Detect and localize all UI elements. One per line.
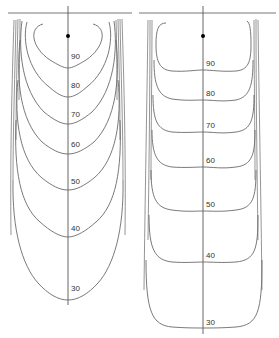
- left-label-60: 60: [71, 140, 80, 149]
- left-label-40: 40: [71, 224, 80, 233]
- left-source-dot: [66, 34, 70, 38]
- right-contour-60: [152, 130, 255, 168]
- right-label-70: 70: [206, 121, 215, 130]
- right-contour-50: [151, 170, 256, 211]
- left-panel: 90 80 70 60 50 40 30: [8, 6, 132, 305]
- left-label-70: 70: [71, 110, 80, 119]
- right-contour-90: [156, 21, 251, 71]
- left-label-50: 50: [71, 177, 80, 186]
- right-label-40: 40: [206, 251, 215, 260]
- contour-diagram: 90 80 70 60 50 40 30 90 80 70 60 50 40: [0, 0, 279, 338]
- left-label-80: 80: [71, 81, 80, 90]
- right-contour-40: [149, 215, 258, 262]
- right-label-90: 90: [206, 59, 215, 68]
- right-wall-lines: [144, 20, 148, 290]
- right-label-80: 80: [206, 89, 215, 98]
- right-panel: 90 80 70 60 50 40 30: [139, 6, 276, 334]
- right-label-30: 30: [206, 318, 215, 327]
- right-contour-30: [146, 260, 262, 328]
- right-contour-80: [154, 60, 253, 101]
- left-label-30: 30: [71, 284, 80, 293]
- right-label-60: 60: [206, 156, 215, 165]
- left-label-90: 90: [71, 52, 80, 61]
- right-contour-70: [153, 95, 254, 133]
- right-source-dot: [201, 34, 205, 38]
- right-label-50: 50: [206, 200, 215, 209]
